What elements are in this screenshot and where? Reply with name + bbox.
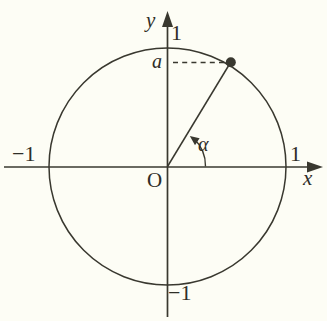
x-axis-label: x (303, 168, 312, 189)
ordinate-label-a: a (152, 51, 162, 71)
y-axis-tick-label-one: 1 (171, 22, 182, 44)
x-axis-tick-label-one: 1 (290, 143, 301, 165)
origin-label: O (147, 170, 162, 191)
y-axis-label: y (146, 10, 155, 31)
terminal-point-marker (226, 57, 236, 67)
y-axis-tick-label-negative-one: −1 (168, 282, 191, 304)
unit-circle-diagram (0, 0, 327, 321)
x-axis-tick-label-negative-one: −1 (12, 143, 35, 165)
angle-label-alpha: α (198, 134, 209, 154)
unit-circle-figure: y 1 a x 1 −1 −1 O α (0, 0, 327, 321)
